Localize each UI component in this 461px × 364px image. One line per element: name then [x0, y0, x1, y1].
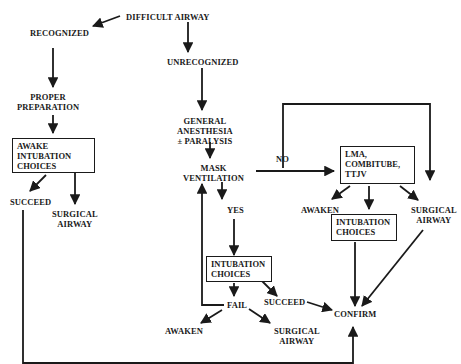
edge-label-yes: YES — [227, 205, 244, 215]
node-fail: FAIL — [227, 300, 247, 310]
node-succeed-left: SUCCEED — [10, 197, 51, 207]
node-confirm: CONFIRM — [334, 309, 376, 319]
node-surgical-airway-bottom: SURGICAL AIRWAY — [274, 326, 320, 346]
box-intubation-choices-mid: INTUBATION CHOICES — [206, 256, 272, 282]
box-awake-intubation-choices: AWAKE INTUBATION CHOICES — [12, 138, 95, 173]
flowchart-canvas: DIFFICULT AIRWAY RECOGNIZED UNRECOGNIZED… — [0, 0, 461, 364]
node-mask-ventilation: MASK VENTILATION — [183, 163, 244, 183]
node-general-anesthesia: GENERAL ANESTHESIA ± PARALYSIS — [177, 116, 233, 146]
node-awaken-bottom: AWAKEN — [165, 326, 203, 336]
node-surgical-airway-left: SURGICAL AIRWAY — [52, 209, 98, 229]
node-unrecognized: UNRECOGNIZED — [167, 57, 239, 67]
node-surgical-airway-right: SURGICAL AIRWAY — [411, 205, 457, 225]
node-difficult-airway: DIFFICULT AIRWAY — [126, 12, 209, 22]
node-succeed-mid: SUCCEED — [264, 297, 305, 307]
node-recognized: RECOGNIZED — [30, 28, 89, 38]
box-intubation-choices-right: INTUBATION CHOICES — [331, 214, 397, 241]
box-lma-combitube-ttjv: LMA, COMBITUBE, TTJV — [340, 146, 415, 184]
node-proper-preparation: PROPER PREPARATION — [17, 92, 79, 112]
edge-label-no: NO — [276, 154, 289, 164]
